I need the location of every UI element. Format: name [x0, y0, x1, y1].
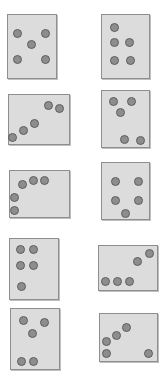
dot-panel [10, 308, 60, 370]
figure-canvas [0, 0, 163, 378]
dot-panel [101, 14, 150, 79]
dot-panel [7, 14, 57, 79]
dot-panel [9, 238, 59, 300]
dot-panel [101, 90, 150, 148]
dot-panel [98, 245, 158, 291]
dot-panel [8, 94, 70, 145]
dot-panel [9, 170, 70, 218]
dot-panel [101, 162, 150, 220]
dot-panel [99, 313, 158, 362]
